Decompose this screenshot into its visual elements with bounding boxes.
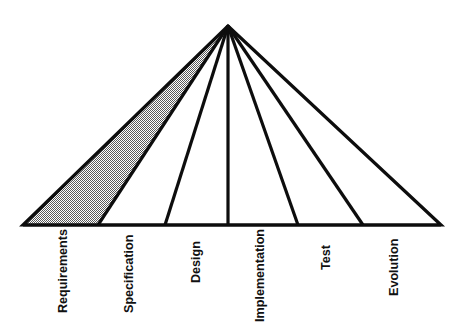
- stage-label-requirements: Requirements: [56, 229, 70, 313]
- stage-label-design: Design: [189, 241, 203, 283]
- lifecycle-fan-diagram: Requirements Specification Design Implem…: [0, 0, 463, 333]
- stage-label-implementation: Implementation: [253, 229, 267, 322]
- stage-label-evolution: Evolution: [387, 239, 401, 296]
- stage-label-specification: Specification: [122, 235, 136, 313]
- fan-diagram-canvas: Requirements Specification Design Implem…: [0, 0, 463, 333]
- stage-label-test: Test: [319, 244, 333, 270]
